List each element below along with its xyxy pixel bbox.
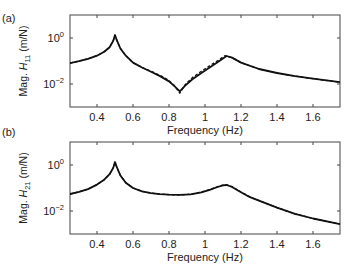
y-tick-label: 100: [48, 157, 64, 171]
x-tick-label: 0.4: [89, 238, 104, 250]
x-tick-label: 1: [202, 111, 208, 123]
figure: (a) 10010−2 0.40.60.811.21.41.6 Frequenc…: [0, 0, 358, 273]
x-tick-label: 1.2: [233, 111, 248, 123]
y-tick-label: 10−2: [43, 203, 64, 217]
x-tick-label: 0.6: [125, 238, 140, 250]
x-tick-label: 1.6: [305, 238, 320, 250]
y-tick-label: 100: [48, 30, 64, 44]
series-dashed-line: [70, 162, 340, 224]
x-tick-label: 0.6: [125, 111, 140, 123]
panel-a-h11-magnitude: (a) 10010−2 0.40.60.811.21.41.6 Frequenc…: [2, 12, 340, 136]
data-series: [70, 162, 340, 224]
series-solid-line: [70, 35, 340, 91]
x-axis-label: Frequency (Hz): [167, 251, 243, 263]
data-series: [70, 35, 340, 93]
y-tick-label: 10−2: [43, 76, 64, 90]
x-tick-label: 0.8: [161, 238, 176, 250]
panel-b-h21-magnitude: (b) 10010−2 0.40.60.811.21.41.6 Frequenc…: [2, 126, 340, 263]
axes-frame: [70, 142, 340, 234]
x-tick-label: 1.2: [233, 238, 248, 250]
panel-label: (b): [2, 126, 15, 138]
y-axis-label: Mag. H11 (m/N): [17, 26, 32, 97]
panel-label: (a): [2, 12, 15, 24]
x-tick-label: 0.8: [161, 111, 176, 123]
x-tick-label: 1: [202, 238, 208, 250]
x-tick-label: 1.4: [269, 111, 284, 123]
axes-frame: [70, 15, 340, 107]
x-tick-label: 0.4: [89, 111, 104, 123]
x-tick-label: 1.6: [305, 111, 320, 123]
x-tick-label: 1.4: [269, 238, 284, 250]
y-axis-ticks: 10010−2: [43, 157, 340, 217]
x-axis-label: Frequency (Hz): [167, 124, 243, 136]
y-axis-label: Mag. H21 (m/N): [17, 152, 32, 223]
